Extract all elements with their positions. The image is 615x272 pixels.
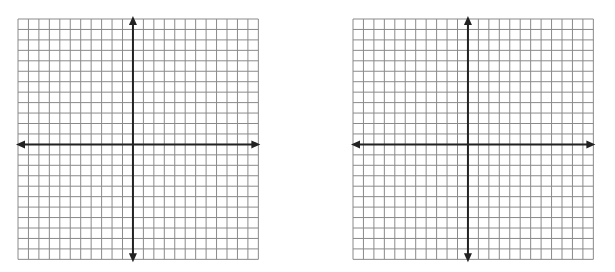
y-axis xyxy=(129,16,137,262)
arrow-right-icon xyxy=(586,140,595,148)
y-axis xyxy=(464,16,472,262)
arrow-down-icon xyxy=(464,253,472,262)
x-axis xyxy=(16,140,260,148)
coordinate-grid-left xyxy=(10,11,266,267)
coordinate-grid-right xyxy=(345,11,601,267)
arrow-down-icon xyxy=(129,253,137,262)
x-axis xyxy=(351,140,595,148)
arrow-left-icon xyxy=(16,140,25,148)
arrow-up-icon xyxy=(129,16,137,25)
arrow-left-icon xyxy=(351,140,360,148)
arrow-up-icon xyxy=(464,16,472,25)
arrow-right-icon xyxy=(251,140,260,148)
